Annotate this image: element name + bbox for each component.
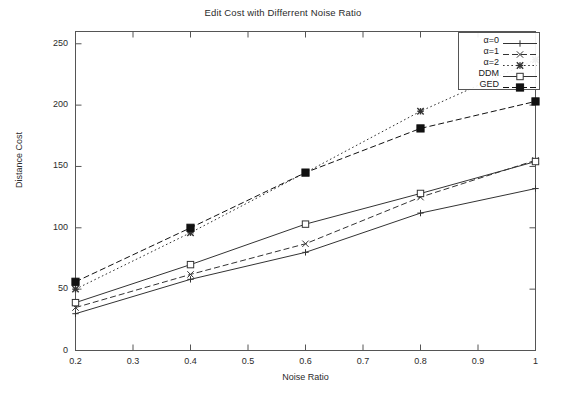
y-tick-label: 100	[18, 222, 68, 232]
data-series-layer	[72, 57, 539, 317]
legend-item-ged[interactable]: GED	[459, 79, 541, 90]
legend-label: DDM	[459, 68, 501, 79]
series-5	[72, 98, 539, 286]
x-tick-label: 0.8	[401, 356, 441, 366]
legend-label: GED	[459, 79, 501, 90]
legend: α=0α=1α=2DDMGED	[458, 32, 540, 90]
y-tick-label: 50	[18, 283, 68, 293]
x-tick-label: 0.4	[171, 356, 211, 366]
legend-item-α1[interactable]: α=1	[459, 46, 541, 57]
legend-swatch-open-square-icon	[501, 68, 539, 79]
chart-figure: Edit Cost with Differrent Noise Ratio Di…	[0, 0, 566, 394]
legend-label: α=0	[459, 35, 501, 46]
x-tick-label: 0.9	[458, 356, 498, 366]
x-tick-label: 0.7	[343, 356, 383, 366]
x-tick-label: 1	[516, 356, 556, 366]
legend-swatch-plus-icon	[501, 35, 539, 46]
legend-swatch-filled-square-icon	[501, 79, 539, 90]
legend-swatch-star-icon	[501, 57, 539, 68]
x-tick-label: 0.5	[228, 356, 268, 366]
x-tick-label: 0.6	[286, 356, 326, 366]
legend-item-ddm[interactable]: DDM	[459, 68, 541, 79]
y-tick-label: 150	[18, 160, 68, 170]
series-1	[72, 185, 538, 317]
legend-item-α0[interactable]: α=0	[459, 35, 541, 46]
y-tick-label: 200	[18, 99, 68, 109]
legend-label: α=2	[459, 57, 501, 68]
legend-item-α2[interactable]: α=2	[459, 57, 541, 68]
legend-swatch-cross-icon	[501, 46, 539, 57]
x-tick-label: 0.2	[56, 356, 96, 366]
x-tick-label: 0.3	[113, 356, 153, 366]
series-4	[72, 158, 538, 305]
legend-label: α=1	[459, 46, 501, 57]
y-tick-label: 0	[18, 345, 68, 355]
y-tick-label: 250	[18, 38, 68, 48]
